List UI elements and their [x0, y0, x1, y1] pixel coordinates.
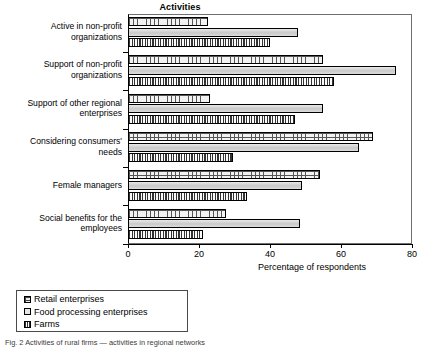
- category-label-line: Considering consumers': [0, 136, 122, 147]
- category-label-line: organizations: [0, 70, 122, 81]
- category-group-4: Female managers: [0, 167, 430, 205]
- bar-group-0: [128, 17, 298, 49]
- x-tick-60: [341, 244, 342, 248]
- chart-legend: Retail enterprises Food processing enter…: [16, 290, 188, 332]
- legend-item-farms[interactable]: Farms: [24, 318, 187, 331]
- category-group-2: Support of other regionalenterprises: [0, 91, 430, 129]
- x-tick-label-40: 40: [255, 249, 285, 259]
- bar-1-2[interactable]: [128, 77, 334, 86]
- legend-swatch-icon-farms: [24, 321, 31, 328]
- category-group-1: Support of non-profitorganizations: [0, 52, 430, 90]
- category-label-2: Support of other regionalenterprises: [0, 98, 122, 119]
- category-label-5: Social benefits for theemployees: [0, 213, 122, 234]
- category-label-line: Support of non-profit: [0, 59, 122, 70]
- legend-swatch-icon-retail: [24, 296, 31, 303]
- bar-4-0[interactable]: [128, 170, 320, 179]
- bar-3-1[interactable]: [128, 143, 359, 152]
- bar-0-1[interactable]: [128, 28, 298, 37]
- chart-figure: Activities Active in non-profitorganizat…: [0, 0, 430, 350]
- bar-2-2[interactable]: [128, 115, 295, 124]
- category-label-0: Active in non-profitorganizations: [0, 21, 122, 42]
- category-label-line: organizations: [0, 32, 122, 43]
- bar-5-0[interactable]: [128, 209, 226, 218]
- category-group-5: Social benefits for theemployees: [0, 206, 430, 244]
- bar-group-1: [128, 55, 396, 87]
- bar-0-2[interactable]: [128, 38, 270, 47]
- bar-5-1[interactable]: [128, 219, 300, 228]
- bar-2-0[interactable]: [128, 94, 210, 103]
- x-tick-0: [128, 244, 129, 248]
- bar-4-2[interactable]: [128, 192, 247, 201]
- figure-caption: Fig. 2 Activities of rural firms — activ…: [5, 338, 425, 347]
- bar-group-4: [128, 170, 320, 202]
- x-tick-label-20: 20: [184, 249, 214, 259]
- legend-label-retail: Retail enterprises: [34, 294, 104, 304]
- category-label-line: Female managers: [0, 180, 122, 191]
- bar-1-0[interactable]: [128, 55, 323, 64]
- bar-group-5: [128, 209, 300, 241]
- bar-1-1[interactable]: [128, 66, 396, 75]
- legend-swatch-icon-food-processing: [24, 308, 31, 315]
- category-label-3: Considering consumers'needs: [0, 136, 122, 157]
- legend-label-farms: Farms: [34, 319, 60, 329]
- x-tick-label-0: 0: [113, 249, 143, 259]
- bar-group-3: [128, 132, 373, 164]
- category-label-line: Social benefits for the: [0, 213, 122, 224]
- x-tick-80: [412, 244, 413, 248]
- x-tick-label-80: 80: [397, 249, 427, 259]
- legend-label-food-processing: Food processing enterprises: [34, 307, 148, 317]
- category-label-line: enterprises: [0, 108, 122, 119]
- bar-3-0[interactable]: [128, 132, 373, 141]
- bar-4-1[interactable]: [128, 181, 302, 190]
- bar-0-0[interactable]: [128, 17, 208, 26]
- x-tick-20: [199, 244, 200, 248]
- legend-item-retail-enterprises[interactable]: Retail enterprises: [24, 293, 187, 306]
- chart-title: Activities: [100, 2, 260, 12]
- x-tick-40: [270, 244, 271, 248]
- bar-2-1[interactable]: [128, 104, 323, 113]
- category-group-0: Active in non-profitorganizations: [0, 14, 430, 52]
- category-group-3: Considering consumers'needs: [0, 129, 430, 167]
- category-label-line: Active in non-profit: [0, 21, 122, 32]
- category-label-line: needs: [0, 147, 122, 158]
- bar-3-2[interactable]: [128, 153, 233, 162]
- category-label-4: Female managers: [0, 180, 122, 191]
- category-label-1: Support of non-profitorganizations: [0, 59, 122, 80]
- x-axis-title: Percentage of respondents: [212, 262, 412, 272]
- bar-5-2[interactable]: [128, 230, 203, 239]
- legend-item-food-processing-enterprises[interactable]: Food processing enterprises: [24, 306, 187, 319]
- x-tick-label-60: 60: [326, 249, 356, 259]
- category-label-line: Support of other regional: [0, 98, 122, 109]
- category-label-line: employees: [0, 223, 122, 234]
- bar-group-2: [128, 94, 323, 126]
